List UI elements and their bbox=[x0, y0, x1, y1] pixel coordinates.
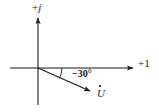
phasor-dot-icon bbox=[99, 85, 101, 87]
phasor-label: U bbox=[97, 88, 105, 99]
angle-label: −30° bbox=[72, 69, 92, 79]
phasor-label-symbol: U bbox=[97, 87, 105, 99]
diagram-canvas bbox=[0, 0, 159, 112]
phasor-diagram: +j +1 −30° U bbox=[0, 0, 159, 112]
real-axis-label: +1 bbox=[138, 58, 150, 69]
imaginary-axis-label-symbol: j bbox=[38, 1, 41, 13]
angle-arc-path bbox=[59, 68, 62, 79]
imaginary-axis-label: +j bbox=[32, 2, 41, 13]
